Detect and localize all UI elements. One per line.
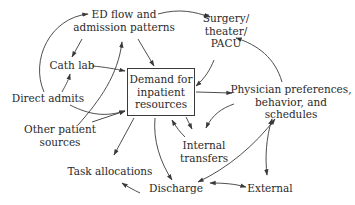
arrow-discharge-to-task-allocations xyxy=(122,183,140,193)
node-external: External xyxy=(247,182,292,195)
node-other-patient-sources: Other patient sources xyxy=(24,123,96,148)
node-physician-line-1: Physician preferences, xyxy=(231,83,352,96)
node-demand-for-inpatient-resources: Demand for inpatient resources xyxy=(127,68,195,116)
arrow-surgery-to-demand xyxy=(196,60,214,86)
node-surgery-line-2: theater/ xyxy=(203,25,249,38)
node-physician: Physician preferences, behavior, and sch… xyxy=(231,83,352,121)
node-cath-lab-line-1: Cath lab xyxy=(50,59,95,72)
node-demand-line-2: inpatient xyxy=(130,86,193,99)
node-direct-admits-line-1: Direct admits xyxy=(12,92,84,105)
arrow-ed-flow-to-demand xyxy=(138,39,154,66)
node-ed-flow-line-2: admission patterns xyxy=(73,21,175,34)
arrow-demand-to-task-allocations xyxy=(114,118,134,155)
node-discharge-line-1: Discharge xyxy=(149,182,203,195)
node-other-sources-line-1: Other patient xyxy=(24,123,96,136)
node-external-line-1: External xyxy=(247,182,292,195)
node-surgery: Surgery/ theater/ PACU xyxy=(203,12,249,50)
arrow-other-sources-to-demand xyxy=(92,111,125,122)
node-internal-transfers-line-2: transfers xyxy=(180,152,228,165)
arrow-other-sources-to-ed-flow xyxy=(78,42,122,125)
arrow-direct-admits-to-demand xyxy=(70,105,125,114)
node-demand-line-3: resources xyxy=(130,98,193,111)
node-ed-flow: ED flow and admission patterns xyxy=(73,8,175,33)
node-cath-lab: Cath lab xyxy=(50,59,95,72)
node-internal-transfers: Internal transfers xyxy=(180,139,228,164)
node-internal-transfers-line-1: Internal xyxy=(180,139,228,152)
arrow-cath-lab-to-demand xyxy=(92,66,125,71)
influence-diagram: ED flow and admission patterns Surgery/ … xyxy=(0,0,355,205)
node-surgery-line-1: Surgery/ xyxy=(203,12,249,25)
node-other-sources-line-2: sources xyxy=(24,136,96,149)
arrow-demand-to-internal-transfers xyxy=(186,117,192,129)
arrow-discharge-external xyxy=(210,183,246,187)
arrow-internal-transfers-to-demand xyxy=(172,120,185,137)
arrow-demand-to-physician xyxy=(196,92,232,93)
node-surgery-line-3: PACU xyxy=(203,37,249,50)
node-task-allocations: Task allocations xyxy=(67,165,152,178)
arrow-direct-admits-to-cath-lab xyxy=(62,74,70,92)
arrow-physician-external xyxy=(266,119,272,175)
node-direct-admits: Direct admits xyxy=(12,92,84,105)
arrow-demand-to-discharge xyxy=(155,118,172,180)
node-physician-line-3: schedules xyxy=(231,108,352,121)
node-discharge: Discharge xyxy=(149,182,203,195)
node-physician-line-2: behavior, and xyxy=(231,96,352,109)
node-demand-line-1: Demand for xyxy=(130,73,193,86)
node-task-allocations-line-1: Task allocations xyxy=(67,165,152,178)
node-ed-flow-line-1: ED flow and xyxy=(73,8,175,21)
arrow-ed-flow-to-cath-lab xyxy=(72,39,82,57)
